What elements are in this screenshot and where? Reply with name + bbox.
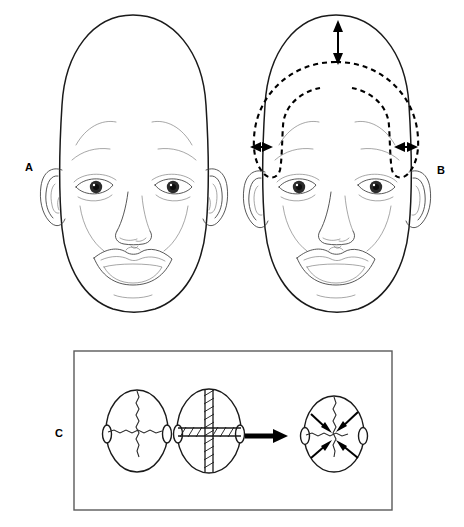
panel-label-a: A (25, 161, 33, 173)
panel-label-c: C (55, 427, 63, 439)
figure-root: A (0, 0, 464, 527)
craniosynostosis-figure: A (0, 0, 464, 527)
panel-label-b: B (437, 164, 445, 176)
